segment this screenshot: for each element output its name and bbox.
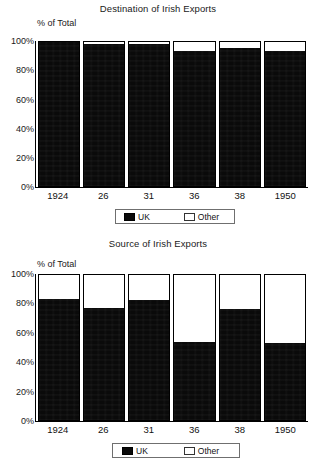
y-tick-100: 100%	[0, 36, 34, 46]
legend-entry-other[interactable]: Other	[184, 446, 219, 456]
y-tick-80: 80%	[0, 298, 34, 308]
bar-segment-uk	[264, 343, 306, 421]
plot-area-destination	[35, 41, 308, 188]
bar-segment-uk	[38, 42, 80, 187]
legend-swatch-other-icon	[184, 447, 195, 455]
bar-36[interactable]	[173, 41, 215, 187]
bar-26[interactable]	[83, 274, 125, 421]
bar-31[interactable]	[128, 274, 170, 421]
y-axis-destination: 100% 80% 60% 40% 20% 0%	[0, 0, 34, 232]
y-tick-0: 0%	[0, 182, 34, 192]
legend-swatch-uk-icon	[124, 213, 135, 221]
y-axis-source: 100% 80% 60% 40% 20% 0%	[0, 232, 34, 468]
bar-1924[interactable]	[38, 41, 80, 187]
y-tick-100: 100%	[0, 269, 34, 279]
bar-segment-uk	[219, 48, 261, 187]
legend-entry-uk[interactable]: UK	[124, 212, 150, 222]
y-tick-0: 0%	[0, 416, 34, 426]
legend-label-uk: UK	[138, 212, 150, 222]
legend-source: UK Other	[112, 443, 240, 458]
y-tick-20: 20%	[0, 387, 34, 397]
legend-destination: UK Other	[115, 209, 235, 224]
bar-segment-uk	[83, 44, 125, 187]
bar-segment-other	[264, 41, 306, 51]
bar-segment-uk	[128, 300, 170, 421]
x-tick-38: 38	[217, 424, 263, 435]
y-tick-60: 60%	[0, 328, 34, 338]
x-axis-source: 1924 26 31 36 38 1950	[35, 424, 308, 435]
bar-26[interactable]	[83, 41, 125, 187]
x-tick-26: 26	[81, 424, 127, 435]
bar-1950[interactable]	[264, 274, 306, 421]
x-tick-36: 36	[172, 424, 218, 435]
x-tick-26: 26	[81, 190, 127, 201]
plot-area-source	[35, 274, 308, 422]
chart-page: { "page": { "background": "#ffffff", "se…	[0, 0, 316, 468]
x-tick-1950: 1950	[263, 424, 309, 435]
chart-source: Source of Irish Exports % of Total 100% …	[0, 232, 316, 468]
bar-segment-other	[38, 274, 80, 299]
y-tick-40: 40%	[0, 124, 34, 134]
bar-segment-other	[219, 41, 261, 48]
x-axis-destination: 1924 26 31 36 38 1950	[35, 190, 308, 201]
plot-wrapper-source: 100% 80% 60% 40% 20% 0%	[0, 232, 316, 468]
y-tick-80: 80%	[0, 65, 34, 75]
x-tick-1924: 1924	[35, 424, 81, 435]
bar-segment-uk	[38, 299, 80, 421]
legend-label-uk: UK	[136, 446, 148, 456]
chart-destination: Destination of Irish Exports % of Total …	[0, 0, 316, 232]
bar-group-source	[36, 274, 308, 421]
x-tick-38: 38	[217, 190, 263, 201]
plot-wrapper-destination: 100% 80% 60% 40% 20% 0%	[0, 0, 316, 232]
y-tick-20: 20%	[0, 153, 34, 163]
bar-segment-other	[128, 274, 170, 300]
bar-38[interactable]	[219, 274, 261, 421]
legend-entry-uk[interactable]: UK	[122, 446, 148, 456]
bar-segment-uk	[173, 51, 215, 187]
bar-31[interactable]	[128, 41, 170, 187]
bar-36[interactable]	[173, 274, 215, 421]
bar-38[interactable]	[219, 41, 261, 187]
legend-swatch-other-icon	[184, 213, 195, 221]
y-tick-40: 40%	[0, 357, 34, 367]
bar-group-destination	[36, 41, 308, 187]
bar-segment-uk	[264, 51, 306, 187]
bar-segment-uk	[173, 342, 215, 421]
bar-segment-other	[173, 41, 215, 51]
bar-segment-other	[83, 274, 125, 308]
legend-label-other: Other	[198, 212, 219, 222]
y-tick-60: 60%	[0, 95, 34, 105]
bar-segment-other	[219, 274, 261, 309]
bar-segment-uk	[219, 309, 261, 421]
bar-segment-other	[264, 274, 306, 343]
bar-1950[interactable]	[264, 41, 306, 187]
bar-segment-other	[173, 274, 215, 342]
legend-entry-other[interactable]: Other	[184, 212, 219, 222]
x-tick-36: 36	[172, 190, 218, 201]
legend-label-other: Other	[198, 446, 219, 456]
bar-1924[interactable]	[38, 274, 80, 421]
bar-segment-uk	[83, 308, 125, 421]
bar-segment-uk	[128, 44, 170, 187]
x-tick-31: 31	[126, 190, 172, 201]
x-tick-1924: 1924	[35, 190, 81, 201]
legend-swatch-uk-icon	[122, 447, 133, 455]
x-tick-31: 31	[126, 424, 172, 435]
x-tick-1950: 1950	[263, 190, 309, 201]
